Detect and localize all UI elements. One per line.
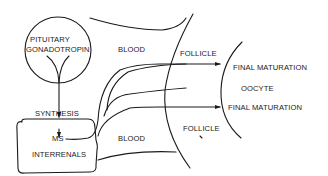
diagram-canvas: PITUITARY GONADOTROPIN BLOOD FOLLICLE FI… — [0, 0, 328, 176]
label-follicle-bottom: FOLLICLE — [183, 124, 220, 133]
label-blood-bottom: BLOOD — [118, 134, 146, 143]
blood-vessel-bottom-lower — [98, 152, 176, 160]
label-follicle-top: FOLLICLE — [180, 49, 217, 58]
label-oocyte: OOCYTE — [241, 84, 274, 93]
pituitary-stem-right — [59, 56, 69, 82]
label-pituitary: PITUITARY — [30, 35, 70, 44]
label-ms: MS — [52, 134, 64, 143]
tick-mark — [200, 136, 202, 138]
oocyte-boundary — [221, 42, 242, 138]
follicle-outer-boundary — [165, 14, 193, 168]
label-synthesis: SYNTHESIS — [35, 109, 79, 118]
label-final-maturation-top: FINAL MATURATION — [233, 63, 307, 72]
blood-vessel-bottom-upper — [104, 88, 186, 116]
blood-vessel-top-upper — [90, 18, 186, 30]
label-interrenals: INTERRENALS — [32, 150, 86, 159]
label-final-maturation-bottom: FINAL MATURATION — [228, 103, 302, 112]
pituitary-stem-left — [47, 56, 59, 82]
label-blood-top: BLOOD — [118, 45, 146, 54]
interrenals-box — [17, 119, 97, 173]
label-gonadotropin: GONADOTROPIN — [26, 45, 90, 54]
